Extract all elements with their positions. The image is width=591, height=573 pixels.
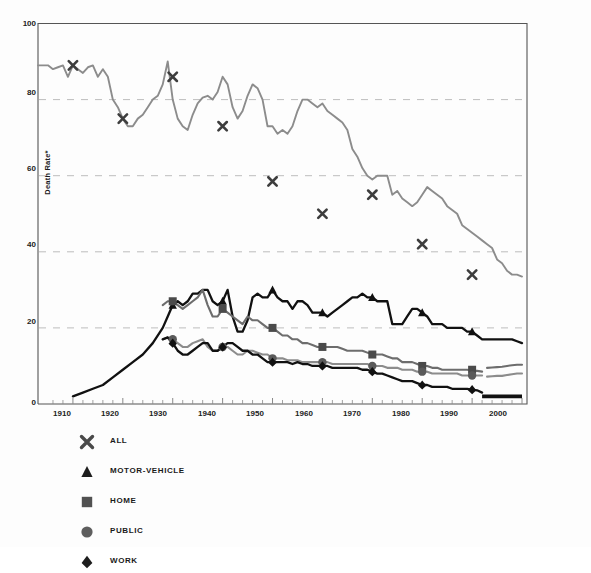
triangle-marker-icon <box>78 463 96 481</box>
series-markers <box>69 61 477 394</box>
data-marker-work <box>468 385 476 394</box>
data-marker-public <box>418 367 426 375</box>
series-layer <box>38 62 522 397</box>
series-line-all <box>38 62 522 277</box>
series-line-home-revised <box>487 365 522 368</box>
gridlines <box>39 100 526 328</box>
legend-label-home: HOME <box>110 496 136 505</box>
plot-frame <box>38 24 527 405</box>
data-marker-all <box>318 210 326 218</box>
square-marker-icon <box>78 493 96 511</box>
legend-item-all: ALL <box>78 431 378 461</box>
chart-legend: ALL MOTOR-VEHICLE HOME PUBLIC WORK <box>78 431 378 573</box>
data-marker-motor-vehicle <box>218 297 226 305</box>
data-marker-all <box>69 61 77 69</box>
data-marker-home <box>219 305 227 313</box>
data-marker-all <box>119 114 127 122</box>
data-marker-all <box>218 122 226 130</box>
data-marker-all <box>418 240 426 248</box>
circle-marker-icon <box>78 523 96 541</box>
legend-item-public: PUBLIC <box>78 521 378 551</box>
diamond-marker-icon <box>78 553 96 571</box>
legend-label-all: ALL <box>110 436 127 445</box>
legend-label-public: PUBLIC <box>110 526 143 535</box>
data-marker-all <box>268 177 276 185</box>
series-line-public-revised <box>487 374 522 377</box>
data-marker-home <box>169 297 177 305</box>
data-marker-home <box>269 324 277 332</box>
data-marker-all <box>368 191 376 199</box>
x-marker-icon <box>78 433 96 451</box>
x-axis-ticks <box>53 398 522 404</box>
data-marker-home <box>368 351 376 359</box>
data-marker-all <box>468 270 476 278</box>
data-marker-work <box>418 380 426 389</box>
legend-item-home: HOME <box>78 491 378 521</box>
legend-item-motor-vehicle: MOTOR-VEHICLE <box>78 461 378 491</box>
legend-label-work: WORK <box>110 556 138 565</box>
legend-item-work: WORK <box>78 551 378 573</box>
legend-label-motor-vehicle: MOTOR-VEHICLE <box>110 466 185 475</box>
data-marker-public <box>468 371 476 379</box>
data-marker-motor-vehicle <box>268 285 276 293</box>
series-line-motor-vehicle <box>73 290 522 397</box>
data-marker-home <box>318 343 326 351</box>
plot-area <box>0 0 591 430</box>
